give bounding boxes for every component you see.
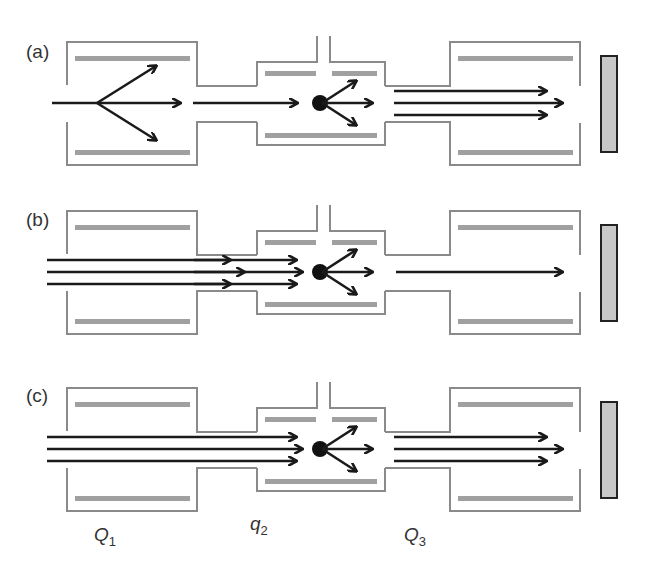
stage-label-q2: q2: [250, 513, 268, 538]
panel-label-a: (a): [26, 41, 49, 63]
triple-quad-diagram: [0, 0, 650, 572]
panel-c: [47, 382, 617, 511]
panel-b: [47, 205, 617, 334]
panel-a: [52, 36, 617, 165]
stage-label-q3: Q3: [404, 524, 426, 549]
panel-label-c: (c): [26, 385, 48, 407]
panel-label-b: (b): [26, 209, 49, 231]
stage-label-q1: Q1: [94, 524, 116, 549]
